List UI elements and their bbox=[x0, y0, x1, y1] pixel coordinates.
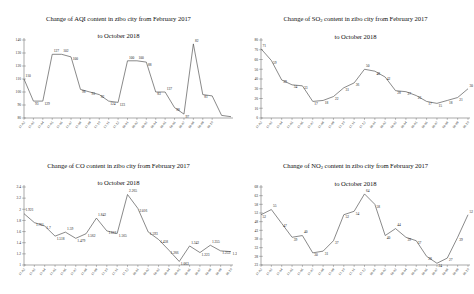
data-point-label: 24 bbox=[439, 264, 443, 268]
data-point-label: 39 bbox=[283, 80, 287, 84]
data-point-label: 31 bbox=[325, 252, 329, 256]
x-axis-tick-label: 17-04 bbox=[276, 120, 284, 129]
x-axis-tick-label: 17-07 bbox=[70, 267, 78, 276]
y-axis-tick-label: 10 bbox=[254, 107, 258, 111]
x-axis-tick-label: 18-08 bbox=[441, 267, 449, 276]
x-axis-tick-label: 18-10 bbox=[225, 267, 233, 276]
data-point-label: 81 bbox=[204, 95, 208, 99]
data-point-label: 1.593 bbox=[150, 232, 158, 236]
data-point-label: 1.342 bbox=[191, 241, 199, 245]
x-axis-tick-label: 17-11 bbox=[103, 120, 111, 129]
data-point-label: 1.063 bbox=[181, 262, 189, 266]
x-axis-tick-label: 17-08 bbox=[317, 267, 325, 276]
y-axis-tick-label: 140 bbox=[16, 38, 22, 42]
data-point-label: 71 bbox=[263, 44, 267, 48]
data-point-label: 40 bbox=[304, 230, 308, 234]
x-axis-tick-label: 18-01 bbox=[369, 120, 377, 129]
x-axis-tick-label: 18-08 bbox=[441, 120, 449, 129]
y-axis-tick-label: 2 bbox=[19, 208, 21, 212]
chart-plot-so2: 0102030405060708017-0217-0317-0417-0517-… bbox=[237, 0, 474, 147]
data-point-label: 137 bbox=[167, 87, 173, 91]
data-point-label: 2.265 bbox=[129, 189, 137, 193]
x-axis-tick-label: 18-04 bbox=[163, 267, 171, 276]
x-axis-tick-label: 17-08 bbox=[317, 120, 325, 129]
x-axis-tick-label: 17-10 bbox=[338, 120, 346, 129]
data-point-label: 52 bbox=[470, 210, 474, 214]
x-axis-tick-label: 17-04 bbox=[39, 267, 47, 276]
data-point-label: 23 bbox=[418, 96, 422, 100]
x-axis-tick-label: 18-07 bbox=[431, 120, 439, 129]
y-axis-tick-label: 68 bbox=[254, 185, 258, 189]
x-axis-tick-label: 17-02 bbox=[255, 267, 263, 276]
data-point-label: 52 bbox=[263, 215, 267, 219]
x-axis-tick-label: 17-03 bbox=[265, 267, 273, 276]
x-axis-tick-label: 17-11 bbox=[348, 267, 356, 276]
y-axis-tick-label: 1.8 bbox=[17, 219, 22, 223]
x-axis-tick-label: 18-05 bbox=[410, 267, 418, 276]
data-point-label: 48 bbox=[376, 72, 380, 76]
y-axis-tick-label: 100 bbox=[16, 90, 22, 94]
data-point-label: 47 bbox=[283, 224, 287, 228]
x-axis-tick-label: 17-07 bbox=[307, 267, 315, 276]
x-axis-tick-label: 18-04 bbox=[400, 267, 408, 276]
data-point-label: 93 bbox=[35, 102, 39, 106]
chart-grid: Change of AQI content in zibo city from … bbox=[0, 0, 474, 294]
y-axis-tick-label: 80 bbox=[254, 38, 258, 42]
data-point-label: 1.253 bbox=[222, 251, 230, 255]
x-axis-tick-label: 17-12 bbox=[112, 120, 120, 129]
chart-panel-co: Change of CO content in zibo city from F… bbox=[0, 147, 237, 294]
x-axis-tick-label: 17-02 bbox=[18, 120, 26, 129]
y-axis-tick-label: 2.4 bbox=[17, 185, 22, 189]
x-axis-tick-label: 17-05 bbox=[286, 120, 294, 129]
x-axis-tick-label: 18-01 bbox=[132, 267, 140, 276]
x-axis-tick-label: 18-03 bbox=[140, 120, 148, 129]
x-axis-tick-label: 18-02 bbox=[379, 267, 387, 276]
data-point-label: 22 bbox=[335, 97, 339, 101]
data-point-label: 1.458 bbox=[160, 240, 168, 244]
x-axis-tick-label: 17-11 bbox=[111, 267, 119, 276]
x-axis-tick-label: 18-05 bbox=[410, 120, 418, 129]
data-point-label: 39 bbox=[459, 238, 463, 242]
series-line bbox=[261, 49, 468, 104]
x-axis-tick-label: 18-10 bbox=[462, 267, 470, 276]
x-axis-tick-label: 18-06 bbox=[184, 267, 192, 276]
y-axis-tick-label: 130 bbox=[16, 51, 22, 55]
x-axis-tick-label: 17-11 bbox=[348, 120, 356, 129]
x-axis-tick-label: 17-12 bbox=[358, 267, 366, 276]
data-point-label: 31 bbox=[345, 88, 349, 92]
x-axis-tick-label: 18-01 bbox=[121, 120, 129, 129]
x-axis-tick-label: 18-09 bbox=[452, 120, 460, 129]
x-axis-tick-label: 18-06 bbox=[169, 120, 177, 129]
data-point-label: 127 bbox=[54, 49, 60, 53]
x-axis-tick-label: 18-04 bbox=[400, 120, 408, 129]
y-axis-tick-label: 1.6 bbox=[17, 230, 22, 234]
data-point-label: 28 bbox=[397, 91, 401, 95]
x-axis-tick-label: 17-09 bbox=[84, 120, 92, 129]
x-axis-tick-label: 18-09 bbox=[215, 267, 223, 276]
y-axis-tick-label: 60 bbox=[254, 58, 258, 62]
x-axis-tick-label: 18-03 bbox=[153, 267, 161, 276]
data-point-label: 98 bbox=[82, 90, 86, 94]
x-axis-tick-label: 17-06 bbox=[296, 120, 304, 129]
y-axis-tick-label: 58 bbox=[254, 203, 258, 207]
x-axis-tick-label: 18-09 bbox=[197, 120, 205, 129]
data-point-label: 2.016 bbox=[139, 209, 147, 213]
x-axis-tick-label: 17-03 bbox=[28, 267, 36, 276]
x-axis-tick-label: 17-10 bbox=[338, 267, 346, 276]
y-axis-tick-label: 80 bbox=[17, 116, 21, 120]
y-axis-tick-label: 43 bbox=[254, 229, 258, 233]
x-axis-tick-label: 17-06 bbox=[56, 120, 64, 129]
data-point-label: 58 bbox=[376, 205, 380, 209]
data-point-label: 100 bbox=[129, 56, 135, 60]
x-axis-tick-label: 18-05 bbox=[159, 120, 167, 129]
y-axis-tick-label: 38 bbox=[254, 237, 258, 241]
data-point-label: 1.565 bbox=[119, 234, 127, 238]
data-point-label: 27 bbox=[408, 92, 412, 96]
x-axis-tick-label: 17-12 bbox=[358, 120, 366, 129]
y-axis-tick-label: 120 bbox=[16, 64, 22, 68]
x-axis-tick-label: 18-03 bbox=[390, 120, 398, 129]
data-point-label: 110 bbox=[26, 74, 31, 78]
chart-svg-aqi: 809010011012013014017-0217-0317-0417-051… bbox=[0, 0, 237, 147]
x-axis-tick-label: 17-04 bbox=[276, 267, 284, 276]
data-point-label: 27 bbox=[449, 258, 453, 262]
